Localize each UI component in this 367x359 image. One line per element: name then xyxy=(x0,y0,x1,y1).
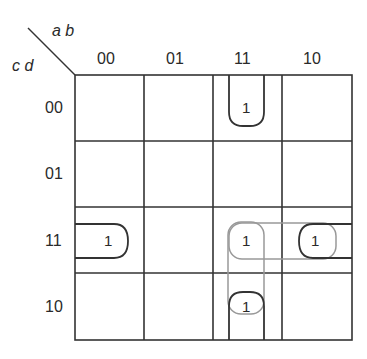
cell-value: 1 xyxy=(242,99,250,116)
kmap-grid xyxy=(0,0,367,359)
cell-value: 1 xyxy=(242,232,250,249)
cell-value: 1 xyxy=(242,298,250,315)
cell-value: 1 xyxy=(311,232,319,249)
cell-value: 1 xyxy=(104,232,112,249)
